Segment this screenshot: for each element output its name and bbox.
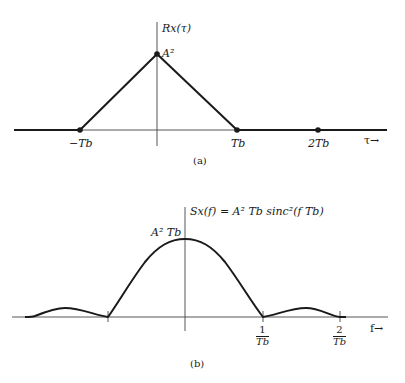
caption-b: (b) [190, 358, 204, 369]
tau-arrow-label: τ→ [364, 135, 379, 146]
tick-2-num: 2 [333, 325, 346, 337]
peak-label-b: A² Tb [151, 227, 181, 238]
tick-label-2-over-tb: 2 Tb [333, 325, 346, 347]
dot-2tb [315, 127, 321, 133]
dot-neg-tb [77, 127, 83, 133]
dot-peak [154, 51, 160, 57]
psd-plot [12, 207, 388, 331]
tick-2-den: Tb [333, 337, 346, 348]
triangle-curve [14, 54, 387, 130]
formula-label: Sx(f) = A² Tb sinc²(f Tb) [190, 206, 324, 217]
f-arrow-label: f→ [370, 323, 383, 334]
sinc-squared-curve [25, 239, 346, 317]
tick-label-2tb: 2Tb [308, 138, 329, 149]
tick-label-neg-tb: −Tb [69, 138, 93, 149]
tick-1-num: 1 [256, 325, 269, 337]
y-axis-label-a: Rx(τ) [162, 23, 191, 34]
tick-label-1-over-tb: 1 Tb [256, 325, 269, 347]
dot-tb [234, 127, 240, 133]
autocorrelation-plot [14, 22, 387, 146]
peak-label-a: A² [162, 48, 174, 59]
tick-label-tb: Tb [231, 138, 245, 149]
caption-a: (a) [193, 155, 207, 166]
tick-1-den: Tb [256, 337, 269, 348]
